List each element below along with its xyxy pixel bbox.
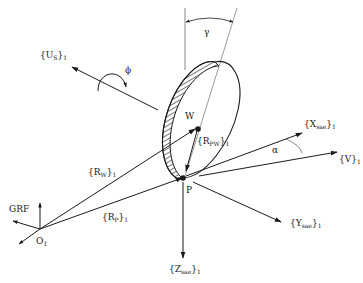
gamma-angle-arc bbox=[186, 18, 233, 22]
ysae-idx: 1 bbox=[318, 222, 322, 229]
label-phi: ϕ bbox=[125, 66, 131, 75]
label-rp: {RP}1 bbox=[102, 213, 128, 223]
rp-idx: 1 bbox=[124, 216, 128, 223]
xsae-sub: sae bbox=[316, 123, 326, 130]
zsae-text: {Z bbox=[169, 264, 181, 274]
label-gamma: γ bbox=[204, 28, 209, 37]
label-y-sae: {Ysae}1 bbox=[290, 219, 321, 229]
alpha-angle-arc bbox=[286, 139, 302, 153]
vector-rpw bbox=[186, 131, 197, 171]
zsae-sub: sae bbox=[181, 268, 191, 275]
label-z-sae: {Zsae}1 bbox=[169, 265, 201, 275]
xsae-text: {X bbox=[304, 119, 316, 129]
label-o1: O1 bbox=[36, 237, 47, 247]
label-v: {V}1 bbox=[339, 155, 361, 165]
o1-idx: 1 bbox=[43, 240, 47, 247]
zsae-idx: 1 bbox=[197, 268, 201, 275]
ysae-text: {Y bbox=[290, 218, 302, 228]
ysae-sub: sae bbox=[302, 222, 312, 229]
rw-idx: 1 bbox=[112, 171, 116, 178]
point-w bbox=[195, 126, 201, 132]
label-us: {US}1 bbox=[40, 51, 67, 61]
y-sae-axis bbox=[193, 182, 281, 222]
rpw-sub: PW bbox=[210, 140, 220, 147]
label-alpha: α bbox=[272, 146, 278, 155]
label-p: P bbox=[186, 186, 192, 195]
label-rpw: {RPW}1 bbox=[197, 137, 229, 147]
label-rw: {RW}1 bbox=[88, 168, 116, 178]
rw-text: {R bbox=[88, 167, 101, 177]
rpw-idx: 1 bbox=[225, 140, 229, 147]
point-p bbox=[180, 175, 186, 181]
us-text: {U bbox=[40, 50, 53, 60]
rpw-text: {R bbox=[197, 136, 210, 146]
label-grf: GRF bbox=[9, 205, 29, 214]
rp-text: {R bbox=[102, 212, 115, 222]
v-text: {V} bbox=[339, 154, 357, 164]
label-w: W bbox=[185, 112, 194, 121]
wheel-kinematics-diagram bbox=[0, 0, 363, 283]
spin-axis-us bbox=[72, 67, 158, 110]
xsae-idx: 1 bbox=[332, 123, 336, 130]
label-x-sae: {Xsae}1 bbox=[304, 120, 336, 130]
us-idx: 1 bbox=[63, 54, 67, 61]
v-idx: 1 bbox=[357, 158, 361, 165]
grf-left-axis bbox=[13, 221, 40, 229]
wheel-plane-line bbox=[185, 8, 237, 176]
